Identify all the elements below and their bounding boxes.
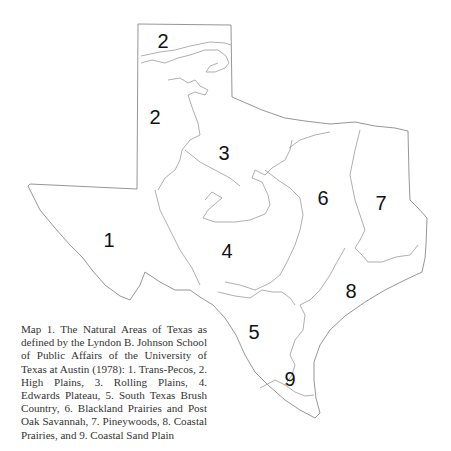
region-boundary-line bbox=[158, 95, 200, 190]
region-label-2b: 2 bbox=[149, 106, 160, 128]
region-boundary-line bbox=[225, 170, 303, 290]
region-label-4: 4 bbox=[221, 240, 232, 262]
region-label-2a: 2 bbox=[157, 30, 168, 52]
map-caption: Map 1. The Natural Areas of Texas as def… bbox=[21, 323, 207, 442]
region-label-8: 8 bbox=[345, 280, 356, 302]
region-label-6: 6 bbox=[317, 187, 328, 209]
region-boundary-line bbox=[141, 42, 231, 56]
region-boundary-line bbox=[350, 130, 365, 248]
region-boundary-line bbox=[203, 140, 292, 222]
region-boundary-line bbox=[289, 132, 330, 148]
region-boundary-line bbox=[168, 78, 208, 95]
region-label-3: 3 bbox=[218, 142, 229, 164]
region-label-1: 1 bbox=[103, 229, 114, 251]
region-boundary-line bbox=[355, 245, 418, 262]
region-boundary-line bbox=[185, 150, 240, 186]
region-label-5: 5 bbox=[248, 321, 259, 343]
region-label-9: 9 bbox=[284, 368, 295, 390]
region-boundary-line bbox=[155, 190, 200, 285]
region-boundary-line bbox=[218, 290, 295, 305]
region-label-7: 7 bbox=[375, 192, 386, 214]
region-boundary-line bbox=[300, 248, 345, 305]
